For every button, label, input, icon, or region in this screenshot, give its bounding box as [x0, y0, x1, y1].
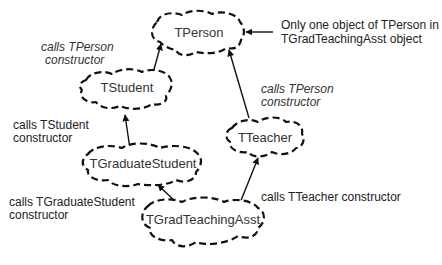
edge-tstudent-to-tperson	[153, 44, 161, 73]
node-label-tgraduatestudent: TGraduateStudent	[90, 156, 197, 171]
node-label-tteacher: TTeacher	[238, 130, 293, 145]
inheritance-diagram: TPerson TStudent TTeacher TGraduateStude…	[0, 0, 442, 265]
node-tteacher: TTeacher	[226, 118, 303, 157]
annotation-grad-calls-student: calls TStudent constructor	[13, 118, 89, 145]
annotation-teacher-calls-person-line2: constructor	[261, 95, 321, 109]
node-tgraduatestudent: TGraduateStudent	[83, 144, 201, 187]
node-tgradteachingasst: TGradTeachingAsst	[142, 198, 264, 247]
annotation-student-calls-person: calls TPerson constructor	[41, 40, 114, 67]
annotation-student-calls-person-line1: calls TPerson	[41, 40, 114, 54]
annotation-ta-calls-grad-line1: calls TGraduateStudent	[9, 195, 136, 209]
edge-tgradteachingasst-to-tteacher	[240, 158, 258, 203]
node-label-tstudent: TStudent	[101, 80, 154, 95]
edge-tteacher-to-tperson	[229, 50, 249, 118]
annotation-teacher-calls-person: calls TPerson constructor	[261, 82, 334, 109]
annotation-student-calls-person-line2: constructor	[45, 53, 105, 67]
annotation-grad-calls-student-line2: constructor	[13, 131, 72, 145]
annotation-ta-calls-grad: calls TGraduateStudent constructor	[9, 195, 136, 222]
node-tstudent: TStudent	[80, 69, 172, 109]
node-tperson: TPerson	[152, 11, 244, 55]
annotation-tperson-note: Only one object of TPerson in TGradTeach…	[281, 18, 439, 46]
annotation-tperson-note-line2: TGradTeachingAsst object	[281, 32, 422, 46]
annotation-tperson-note-line1: Only one object of TPerson in	[281, 18, 439, 32]
annotation-ta-calls-teacher-line1: calls TTeacher constructor	[261, 190, 401, 204]
annotation-ta-calls-teacher: calls TTeacher constructor	[261, 190, 401, 204]
annotation-grad-calls-student-line1: calls TStudent	[13, 118, 89, 132]
node-label-tgradteachingasst: TGradTeachingAsst	[146, 212, 261, 227]
node-label-tperson: TPerson	[174, 25, 223, 40]
annotation-teacher-calls-person-line1: calls TPerson	[261, 82, 334, 96]
annotation-ta-calls-grad-line2: constructor	[9, 208, 68, 222]
